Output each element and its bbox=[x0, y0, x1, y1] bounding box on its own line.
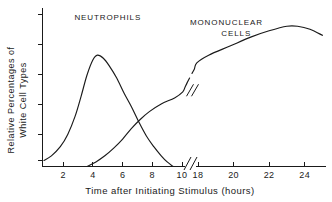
x-tick-label: 18 bbox=[193, 170, 204, 180]
curve-mononuclear-segment-a bbox=[87, 78, 190, 166]
chart-canvas: Relative Percentages of White Cell Types… bbox=[0, 0, 332, 202]
x-axis-title: Time after Initiating Stimulus (hours) bbox=[85, 185, 254, 196]
series-label-mononuclear-line2: CELLS bbox=[221, 29, 251, 38]
x-axis-tick-labels: 24681018202224 bbox=[61, 170, 310, 180]
curve-break-icon bbox=[187, 84, 199, 96]
x-tick-label: 2 bbox=[61, 170, 66, 180]
x-tick-label: 10 bbox=[177, 170, 188, 180]
x-tick-label: 8 bbox=[150, 170, 155, 180]
curve-neutrophils bbox=[44, 55, 173, 166]
series-label-neutrophils: NEUTROPHILS bbox=[74, 13, 141, 22]
x-axis-ticks bbox=[63, 162, 304, 167]
x-axis-break-icon bbox=[184, 157, 197, 170]
series-label-mononuclear-line1: MONONUCLEAR bbox=[190, 18, 263, 27]
x-tick-label: 6 bbox=[120, 170, 125, 180]
x-tick-label: 4 bbox=[90, 170, 95, 180]
x-tick-label: 22 bbox=[264, 170, 275, 180]
x-tick-label: 20 bbox=[228, 170, 239, 180]
y-axis-title-line2: White Cell Types bbox=[18, 62, 28, 137]
y-axis-title: Relative Percentages of White Cell Types bbox=[6, 46, 28, 153]
chart-figure: Relative Percentages of White Cell Types… bbox=[0, 0, 332, 202]
y-axis-title-line1: Relative Percentages of bbox=[6, 46, 16, 153]
x-tick-label: 24 bbox=[299, 170, 310, 180]
curve-mononuclear-segment-b bbox=[192, 26, 322, 74]
y-axis-ticks bbox=[38, 15, 43, 161]
